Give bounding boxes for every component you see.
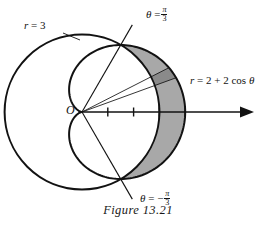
label-theta-lower-sign: − — [157, 192, 163, 204]
label-cardioid-equals: = — [197, 74, 203, 86]
fraction-pi-over-3-upper: π3 — [161, 6, 167, 24]
label-circle-r: r — [24, 19, 28, 31]
figure-graphic — [0, 0, 276, 225]
label-theta-lower-equals: = — [148, 192, 154, 204]
polar-figure: r = 3 θ =π3 θ = −π3 r = 2 + 2 cos θ O Fi… — [0, 0, 276, 225]
label-cardioid-r: r — [190, 74, 194, 86]
axis-arrowhead-icon — [240, 107, 254, 118]
label-theta-lower-symbol: θ — [140, 192, 145, 204]
label-cardioid-equation: r = 2 + 2 cos θ — [190, 75, 254, 86]
label-cardioid-theta: θ — [249, 74, 254, 86]
label-cardioid-expression: 2 + 2 cos — [206, 74, 246, 86]
label-theta-upper: θ =π3 — [146, 6, 168, 24]
label-theta-upper-symbol: θ — [146, 8, 151, 20]
label-theta-upper-equals: = — [154, 8, 160, 20]
fraction-denominator: 3 — [161, 15, 167, 23]
figure-caption: Figure 13.21 — [0, 203, 276, 218]
origin-label: O — [66, 104, 75, 116]
label-circle-equation: r = 3 — [24, 20, 46, 31]
label-circle-equals: = — [31, 19, 37, 31]
label-circle-value: 3 — [40, 19, 46, 31]
